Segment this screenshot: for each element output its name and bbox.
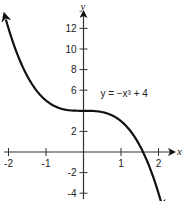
y-tick-label: 2 <box>71 126 77 137</box>
axes <box>4 12 174 199</box>
y-tick-label: 10 <box>65 44 77 55</box>
x-tick-label: -1 <box>42 158 51 169</box>
x-tick-label: 1 <box>118 158 124 169</box>
cubic-function-graph: -2-112-4-22681012 y = −x³ + 4 x y <box>0 0 183 201</box>
x-tick-label: -2 <box>4 158 13 169</box>
equation-label: y = −x³ + 4 <box>100 88 148 99</box>
x-axis-label: x <box>176 145 182 157</box>
y-tick-label: 6 <box>71 85 77 96</box>
x-tick-label: 2 <box>156 158 162 169</box>
y-tick-label: 12 <box>65 23 77 34</box>
y-tick-label: -2 <box>68 167 77 178</box>
y-tick-label: 8 <box>71 64 77 75</box>
y-axis-label: y <box>80 0 86 12</box>
y-tick-label: -4 <box>68 188 77 199</box>
